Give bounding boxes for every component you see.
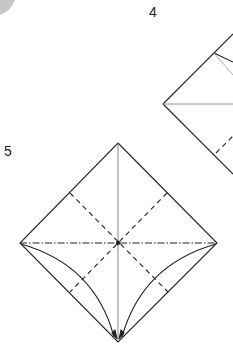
step-4-diagram	[163, 34, 233, 174]
step-5-diagram	[20, 143, 217, 342]
diagram-canvas	[0, 0, 233, 355]
center-point	[116, 241, 119, 244]
